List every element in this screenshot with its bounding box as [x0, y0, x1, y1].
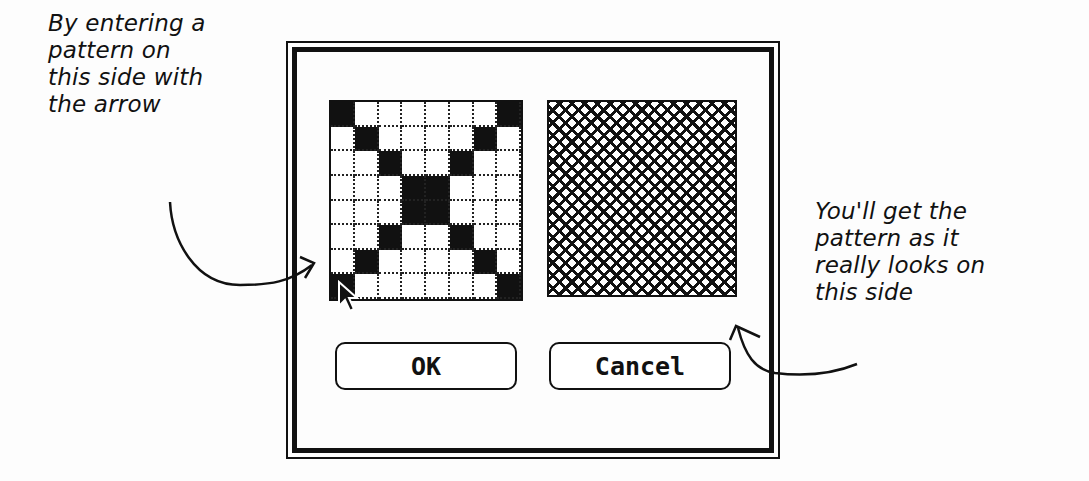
left-pointer-arrow-icon	[170, 202, 314, 285]
annotation-arrows	[0, 0, 1089, 481]
right-pointer-arrow-icon	[730, 326, 857, 374]
